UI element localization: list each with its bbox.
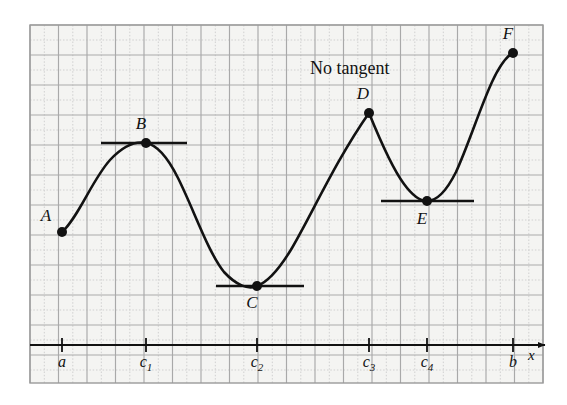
point-label-a: A [40, 206, 52, 225]
point-marker-a [57, 227, 67, 237]
no-tangent-annotation: No tangent [310, 58, 389, 78]
point-marker-e [422, 196, 432, 206]
point-label-d: D [356, 84, 370, 103]
point-marker-d [364, 108, 374, 118]
point-marker-b [141, 138, 151, 148]
figure-page: ABCDEF ac1c2c3c4b x No tangent [0, 0, 567, 405]
point-label-f: F [502, 24, 514, 43]
x-tick-label-a: a [58, 353, 66, 370]
plot-area [30, 25, 543, 383]
point-marker-f [508, 48, 518, 58]
x-tick-label-b: b [509, 353, 517, 370]
point-label-c: C [246, 293, 258, 312]
x-axis-label: x [527, 347, 535, 363]
point-label-e: E [416, 209, 428, 228]
calculus-critical-points-figure: ABCDEF ac1c2c3c4b x No tangent [0, 0, 567, 405]
point-label-b: B [136, 114, 147, 133]
point-marker-c [252, 281, 262, 291]
